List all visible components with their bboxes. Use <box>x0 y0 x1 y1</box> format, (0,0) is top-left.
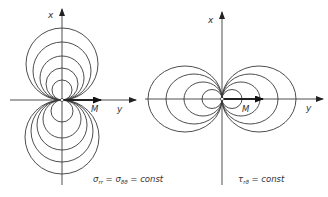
right-caption: τrϑ = const <box>238 174 285 185</box>
right-x-label: x <box>207 15 214 25</box>
left-x-label: x <box>47 10 54 20</box>
right-y-label: y <box>305 103 312 113</box>
right-moment-label: M <box>242 104 250 114</box>
left-moment-label: M <box>91 104 99 114</box>
stress-contour-figure: x y M σrr = σϑϑ = const x y M τrϑ = cons… <box>0 0 328 197</box>
left-caption: σrr = σϑϑ = const <box>93 174 164 185</box>
right-diagram: x y M τrϑ = const <box>145 12 323 185</box>
left-diagram: x y M σrr = σϑϑ = const <box>10 9 164 185</box>
left-y-label: y <box>116 104 123 114</box>
